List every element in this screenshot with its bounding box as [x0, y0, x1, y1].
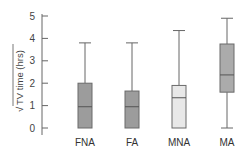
x-axis-labels: FNAFAMNAMA [75, 137, 235, 148]
y-tick-label: 5 [29, 11, 35, 22]
x-category-label: FA [126, 137, 139, 148]
y-axis: 012345 [29, 11, 48, 136]
radical-sign: √ [14, 106, 25, 112]
iqr-box [172, 85, 186, 128]
y-tick-label: 4 [29, 33, 35, 44]
y-axis-label: √TV time (hrs) [13, 44, 25, 112]
iqr-box [125, 91, 139, 128]
x-category-label: MA [220, 137, 235, 148]
y-axis-label-text: TV time (hrs) [14, 50, 25, 105]
x-category-label: MNA [168, 137, 191, 148]
box-plot-chart: 012345 √TV time (hrs) FNAFAMNAMA [0, 0, 247, 155]
x-category-label: FNA [75, 137, 95, 148]
iqr-box [220, 44, 234, 92]
box-fna [78, 43, 92, 128]
box-series [78, 18, 234, 128]
box-fa [125, 43, 139, 128]
y-tick-label: 1 [29, 100, 35, 111]
y-tick-label: 3 [29, 55, 35, 66]
y-tick-label: 2 [29, 78, 35, 89]
y-tick-label: 0 [29, 123, 35, 134]
box-mna [172, 31, 186, 128]
iqr-box [78, 83, 92, 128]
box-ma [220, 18, 234, 128]
